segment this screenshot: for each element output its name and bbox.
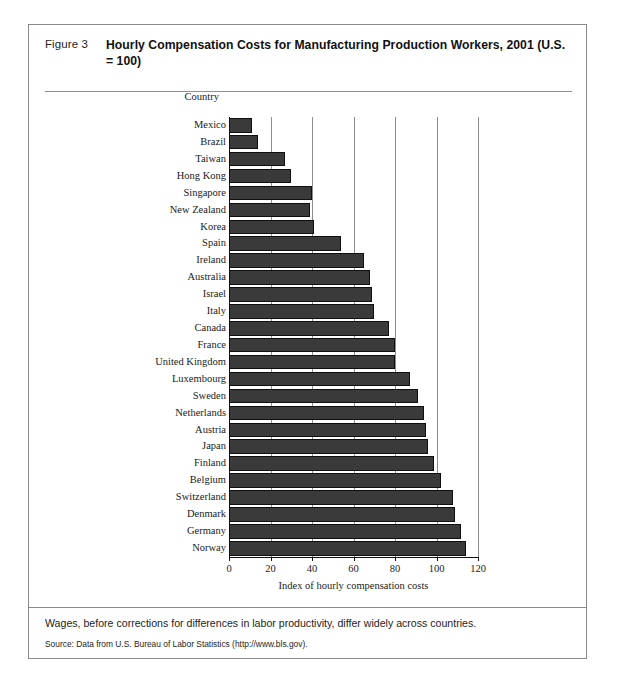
bar-row: Spain — [29, 235, 589, 251]
bar — [229, 236, 341, 251]
bar — [229, 186, 312, 201]
bar — [229, 253, 364, 268]
bar-row: Switzerland — [29, 489, 589, 505]
x-axis-tick-label: 100 — [429, 563, 445, 574]
bar-row: Austria — [29, 422, 589, 438]
bar-row: Sweden — [29, 388, 589, 404]
bar — [229, 338, 395, 353]
bar-category-label: Israel — [91, 286, 226, 302]
bar-row: France — [29, 337, 589, 353]
bar — [229, 439, 428, 454]
bar-category-label: Denmark — [91, 506, 226, 522]
x-axis-tick-label: 80 — [390, 563, 401, 574]
chart-plot-area: Country 020406080100120 MexicoBrazilTaiw… — [29, 91, 586, 588]
bar-row: Korea — [29, 219, 589, 235]
bar — [229, 304, 374, 319]
x-axis-tick — [437, 557, 438, 561]
x-axis-tick — [354, 557, 355, 561]
bar-category-label: Switzerland — [91, 489, 226, 505]
bar-row: United Kingdom — [29, 354, 589, 370]
bar-category-label: Germany — [91, 523, 226, 539]
figure-caption: Wages, before corrections for difference… — [45, 617, 565, 629]
bar-row: Israel — [29, 286, 589, 302]
bar-category-label: Korea — [91, 219, 226, 235]
bar-row: Germany — [29, 523, 589, 539]
bar-row: Taiwan — [29, 151, 589, 167]
bar-category-label: Australia — [91, 269, 226, 285]
bar — [229, 389, 418, 404]
bar-category-label: Singapore — [91, 185, 226, 201]
bar — [229, 355, 395, 370]
bar — [229, 118, 252, 133]
bar-category-label: Luxembourg — [91, 371, 226, 387]
bar-row: Luxembourg — [29, 371, 589, 387]
bar-category-label: Sweden — [91, 388, 226, 404]
bar-row: Hong Kong — [29, 168, 589, 184]
bar-category-label: Italy — [91, 303, 226, 319]
bar — [229, 169, 291, 184]
bar-row: Netherlands — [29, 405, 589, 421]
figure-header: Figure 3 Hourly Compensation Costs for M… — [29, 25, 586, 69]
x-axis-tick-label: 0 — [226, 563, 231, 574]
bar-category-label: Canada — [91, 320, 226, 336]
bar-category-label: Finland — [91, 455, 226, 471]
x-axis-tick-label: 20 — [265, 563, 276, 574]
bar-category-label: France — [91, 337, 226, 353]
bar-row: Finland — [29, 455, 589, 471]
bar-row: Australia — [29, 269, 589, 285]
bar-row: Denmark — [29, 506, 589, 522]
bar-row: Brazil — [29, 134, 589, 150]
x-axis-tick-label: 40 — [307, 563, 318, 574]
x-axis-tick — [271, 557, 272, 561]
x-axis-tick — [312, 557, 313, 561]
bar-category-label: Taiwan — [91, 151, 226, 167]
x-axis-tick — [478, 557, 479, 561]
bar-row: Ireland — [29, 252, 589, 268]
bar-category-label: New Zealand — [91, 202, 226, 218]
bar — [229, 287, 372, 302]
bar-row: Japan — [29, 438, 589, 454]
bar-category-label: Austria — [91, 422, 226, 438]
bar-category-label: Belgium — [91, 472, 226, 488]
x-axis-tick-label: 60 — [348, 563, 359, 574]
x-axis-tick — [229, 557, 230, 561]
bar-category-label: Brazil — [91, 134, 226, 150]
bar — [229, 135, 258, 150]
bar — [229, 507, 455, 522]
bar-category-label: Netherlands — [91, 405, 226, 421]
bar-category-label: Mexico — [91, 117, 226, 133]
figure-number-label: Figure 3 — [45, 37, 88, 50]
bar — [229, 423, 426, 438]
bar — [229, 541, 466, 556]
bar — [229, 524, 461, 539]
figure-panel: Figure 3 Hourly Compensation Costs for M… — [28, 24, 587, 659]
bar-category-label: Hong Kong — [91, 168, 226, 184]
bar — [229, 203, 310, 218]
figure-source: Source: Data from U.S. Bureau of Labor S… — [45, 639, 565, 649]
bar-row: New Zealand — [29, 202, 589, 218]
bar — [229, 270, 370, 285]
bar-category-label: Ireland — [91, 252, 226, 268]
bar — [229, 321, 389, 336]
bar-category-label: Japan — [91, 438, 226, 454]
bar-row: Belgium — [29, 472, 589, 488]
bar — [229, 473, 441, 488]
x-axis-title: Index of hourly compensation costs — [229, 580, 478, 591]
x-axis-tick-label: 120 — [470, 563, 486, 574]
bar-row: Norway — [29, 540, 589, 556]
bar-category-label: Spain — [91, 235, 226, 251]
bar — [229, 490, 453, 505]
bar-category-label: Norway — [91, 540, 226, 556]
bar-row: Canada — [29, 320, 589, 336]
footer-divider — [29, 607, 586, 608]
bar — [229, 220, 314, 235]
x-axis-tick — [395, 557, 396, 561]
bar-category-label: United Kingdom — [91, 354, 226, 370]
bar — [229, 372, 410, 387]
bar — [229, 152, 285, 167]
category-axis-title: Country — [99, 91, 219, 102]
bar-row: Singapore — [29, 185, 589, 201]
bar-row: Mexico — [29, 117, 589, 133]
bar — [229, 406, 424, 421]
bar-row: Italy — [29, 303, 589, 319]
